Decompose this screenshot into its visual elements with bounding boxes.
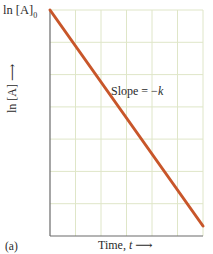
y-intercept-label: ln [A]0: [3, 4, 37, 20]
x-axis-arrow-icon: ⟶: [132, 238, 152, 252]
slope-text: Slope = −: [111, 84, 158, 98]
y-axis-title: ln [A] ⟶: [5, 64, 20, 113]
y-intercept-text: ln [A]: [3, 3, 33, 17]
chart-plot: [0, 0, 213, 254]
x-axis-title: Time, t ⟶: [98, 239, 152, 251]
x-axis-text: Time,: [98, 238, 129, 252]
slope-annotation: Slope = −k: [111, 85, 163, 97]
panel-label: (a): [5, 241, 18, 253]
y-intercept-subscript: 0: [33, 11, 37, 20]
slope-variable: k: [158, 84, 163, 98]
